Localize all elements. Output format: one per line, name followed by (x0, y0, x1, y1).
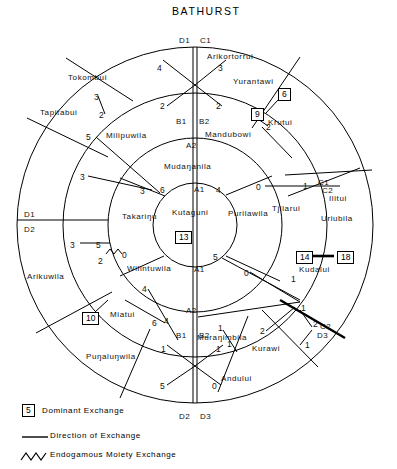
clan-label: Tokombui (68, 73, 107, 82)
exchange-count: 1 (216, 344, 221, 354)
dominant-exchange-box: 14 (296, 251, 313, 264)
clan-label: Arikuwila (27, 272, 64, 281)
inner-div-3 (226, 256, 280, 281)
dominant-connector-6 (266, 100, 278, 113)
exchange-count: 3 (80, 172, 85, 182)
moiety-label: B2 (199, 331, 210, 340)
exchange-line-a2-horiz (198, 302, 300, 317)
exchange-count: 5 (96, 240, 101, 250)
exchange-count: 1 (301, 303, 306, 313)
exchange-count: 2 (160, 101, 165, 111)
exchange-count: 2 (266, 122, 271, 132)
legend-endogamous-label: Endogamous Moiety Exchange (50, 450, 176, 459)
clan-label: Uriubila (321, 214, 353, 223)
clan-label: Mandubowi (205, 130, 251, 139)
clan-label: Kudalui (299, 265, 330, 274)
clan-label: Takariŋu (122, 212, 157, 221)
clan-label: Tapitabui (40, 108, 77, 117)
exchange-count: 1 (305, 340, 310, 350)
ring-inner (153, 183, 237, 267)
moiety-label: A2 (186, 306, 197, 315)
dominant-exchange-box: 6 (278, 88, 291, 101)
exchange-count: 1 (218, 323, 223, 333)
exchange-count: 2 (313, 319, 318, 329)
moiety-label: A1 (194, 265, 205, 274)
clan-label: Yurantawi (233, 77, 274, 86)
exchange-count: 5 (160, 381, 165, 391)
clan-label: Miatui (110, 310, 135, 319)
clan-label: Milipuwila (106, 131, 147, 140)
exchange-count: 1 (227, 339, 232, 349)
clan-label: Krutui (268, 118, 293, 127)
sector-divider-3 (36, 292, 112, 333)
ring-outer (17, 47, 373, 403)
exchange-line-wilintuwila (148, 289, 178, 340)
moiety-label: D3 (317, 331, 328, 340)
clan-label: Ilitui (329, 194, 347, 203)
exchange-count: 0 (122, 250, 127, 260)
moiety-label: B2 (199, 117, 210, 126)
exchange-count: 2 (260, 326, 265, 336)
exchange-count: 0 (212, 381, 217, 391)
exchange-count: 3 (94, 92, 99, 102)
legend-zigzag-symbol (20, 450, 50, 462)
legend-line-symbol (22, 432, 52, 442)
sector-divider-4 (120, 329, 150, 398)
moiety-label: B1 (176, 331, 187, 340)
exchange-count: 0 (244, 268, 249, 278)
exchange-count: 2 (216, 101, 221, 111)
exchange-count: 6 (160, 185, 165, 195)
moiety-label: D1 (179, 36, 190, 45)
moiety-label: D2 (179, 412, 190, 421)
clan-label: Andului (221, 374, 252, 383)
ring-third (63, 93, 327, 357)
clan-label: Tjilarui (272, 204, 300, 213)
legend-dominant-label: Dominant Exchange (42, 406, 124, 415)
clan-label: Arikortorrui (207, 52, 253, 61)
clan-label: Purilawila (228, 209, 268, 218)
exchange-line-bot-nw (167, 345, 195, 366)
moiety-label: C2 (320, 322, 331, 331)
exchange-count: 4 (216, 185, 221, 195)
clan-label: Puŋaluŋwila (86, 352, 136, 361)
moiety-label: C1 (200, 36, 211, 45)
exchange-count: 3 (70, 240, 75, 250)
exchange-count: 0 (256, 182, 261, 192)
moiety-label: C2 (322, 186, 333, 195)
exchange-count: 4 (157, 63, 162, 73)
diagram-svg (0, 0, 397, 469)
moiety-label: D1 (24, 210, 35, 219)
exchange-count: 1 (303, 181, 308, 191)
dominant-exchange-box: 18 (337, 251, 354, 264)
dominant-exchange-box: 10 (82, 312, 99, 325)
exchange-count: 4 (164, 316, 169, 326)
dominant-exchange-box: 9 (251, 108, 264, 121)
sector-divider-8 (285, 170, 372, 175)
exchange-count: 2 (99, 110, 104, 120)
exchange-line-bot-se (195, 366, 221, 385)
exchange-count: 2 (98, 256, 103, 266)
moiety-label: A1 (194, 185, 205, 194)
moiety-label: D2 (24, 225, 35, 234)
exchange-count: 3 (218, 63, 223, 73)
clan-label: Kutaguni (172, 208, 208, 217)
legend-direction-label: Direction of Exchange (50, 431, 141, 440)
dominant-connector-10 (95, 300, 108, 312)
exchange-line-bot-sw (167, 366, 195, 385)
clan-label: Kurawi (252, 344, 280, 353)
exchange-count: 5 (86, 132, 91, 142)
exchange-count: 5 (213, 252, 218, 262)
exchange-count: 3 (140, 186, 145, 196)
dominant-exchange-box: 13 (175, 231, 192, 244)
moiety-label: B1 (176, 117, 187, 126)
exchange-count: 4 (142, 284, 147, 294)
exchange-line-top-nw (163, 60, 195, 85)
clan-label: Wilintuwila (127, 264, 171, 273)
moiety-label: D3 (200, 412, 211, 421)
exchange-count: 6 (152, 318, 157, 328)
diagram-root: BATHURST (0, 0, 397, 469)
legend-dominant-box: 5 (22, 404, 35, 417)
clan-label: Mudaŋanila (164, 162, 211, 171)
moiety-label: A2 (186, 141, 197, 150)
endogamous-zigzag (106, 249, 122, 254)
